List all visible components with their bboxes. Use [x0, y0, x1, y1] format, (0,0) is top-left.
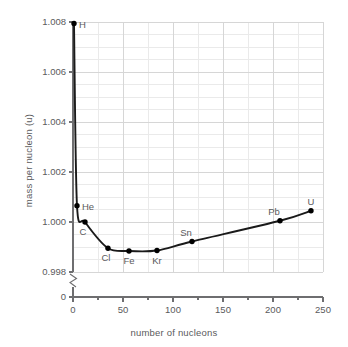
svg-text:1.002: 1.002: [42, 166, 66, 177]
data-points: [71, 21, 313, 254]
point-label-he: He: [82, 201, 94, 212]
grid-minor-lines: [73, 22, 323, 272]
svg-text:1.006: 1.006: [42, 66, 66, 77]
data-point-c: [82, 219, 87, 224]
data-point-h: [71, 21, 76, 26]
svg-text:100: 100: [165, 304, 181, 315]
data-point-fe: [126, 248, 131, 253]
point-label-fe: Fe: [123, 255, 134, 266]
point-label-h: H: [79, 19, 86, 30]
point-label-pb: Pb: [268, 206, 280, 217]
svg-text:0: 0: [70, 304, 75, 315]
point-label-sn: Sn: [180, 227, 192, 238]
svg-text:250: 250: [315, 304, 331, 315]
axis-tick-labels: 0.9981.0001.0021.0041.0061.0080050100150…: [42, 16, 331, 315]
svg-text:1.000: 1.000: [42, 216, 66, 227]
point-label-c: C: [80, 226, 87, 237]
data-point-he: [74, 203, 79, 208]
svg-text:150: 150: [215, 304, 231, 315]
svg-text:1.004: 1.004: [42, 116, 66, 127]
data-point-kr: [154, 248, 159, 253]
point-label-u: U: [308, 196, 315, 207]
data-point-u: [308, 208, 313, 213]
svg-text:0: 0: [61, 291, 66, 302]
data-point-cl: [105, 246, 110, 251]
data-point-sn: [189, 239, 194, 244]
chart-figure: HHeCClFeKrSnPbU 0.9981.0001.0021.0041.00…: [0, 0, 348, 347]
point-label-cl: Cl: [102, 252, 111, 263]
data-point-pb: [277, 218, 282, 223]
mass-per-nucleon-chart: HHeCClFeKrSnPbU 0.9981.0001.0021.0041.00…: [0, 0, 348, 347]
svg-text:200: 200: [265, 304, 281, 315]
svg-text:1.008: 1.008: [42, 16, 66, 27]
svg-text:50: 50: [118, 304, 129, 315]
data-point-labels: HHeCClFeKrSnPbU: [79, 19, 315, 267]
point-label-kr: Kr: [152, 255, 162, 266]
data-curve: [74, 24, 311, 252]
svg-text:0.998: 0.998: [42, 266, 66, 277]
y-axis-title: mass per nucleon (u): [23, 81, 34, 241]
y-axis-break-icon: [70, 274, 77, 287]
x-axis-title: number of nucleons: [0, 327, 348, 338]
